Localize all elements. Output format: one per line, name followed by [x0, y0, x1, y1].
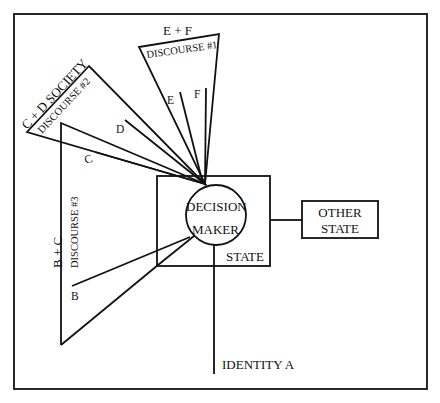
- discourse-3-label: DISCOURSE #3: [69, 197, 80, 268]
- discourse-1-label: DISCOURSE #1: [146, 39, 218, 60]
- actor-d-line: [125, 120, 205, 184]
- discourse-3-wedge-inner: [158, 236, 194, 265]
- decision-maker-label-2: MAKER: [192, 222, 239, 237]
- other-state-label-2: STATE: [321, 221, 359, 236]
- actor-b-line: [72, 237, 190, 286]
- discourse-3-group-label: B + C: [50, 237, 65, 268]
- actor-f-line: [205, 88, 206, 184]
- other-state-label-1: OTHER: [318, 205, 362, 220]
- actor-b-label: B: [71, 290, 79, 302]
- actor-c-label: C: [83, 152, 95, 166]
- identity-a-label: IDENTITY A: [222, 357, 295, 372]
- discourse-1-group-label: E + F: [163, 23, 192, 38]
- discourse-3-wedge-bottom: [61, 265, 158, 345]
- actor-f-label: F: [194, 88, 200, 100]
- diagram-canvas: E + F DISCOURSE #1 E F C + D SOCIETY DIS…: [0, 0, 440, 403]
- decision-maker-label-1: DECISION: [186, 199, 247, 214]
- actor-d-label: D: [116, 123, 124, 135]
- actor-e-label: E: [167, 94, 174, 106]
- state-label: STATE: [226, 249, 264, 264]
